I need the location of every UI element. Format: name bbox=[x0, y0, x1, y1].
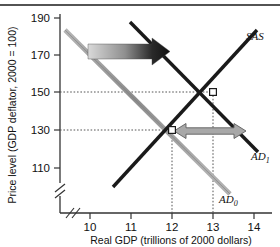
x-axis-title: Real GDP (trillions of 2000 dollars) bbox=[90, 234, 251, 246]
ad0-label-base: AD bbox=[218, 193, 234, 205]
chart-svg: 190 170 150 130 110 10 11 12 13 14 Real … bbox=[0, 0, 280, 247]
x-tick-label-13: 13 bbox=[207, 221, 220, 233]
sas-curve-label: SAS bbox=[246, 30, 264, 42]
y-tick-marks bbox=[54, 18, 60, 168]
x-tick-marks bbox=[90, 213, 254, 219]
y-tick-label-150: 150 bbox=[31, 86, 50, 98]
y-axis-break-mark bbox=[55, 184, 65, 198]
as-ad-chart-figure: 190 170 150 130 110 10 11 12 13 14 Real … bbox=[0, 0, 280, 247]
ad0-curve-label: AD0 bbox=[218, 193, 238, 208]
y-tick-label-190: 190 bbox=[31, 12, 50, 24]
ad0-label-subscript: 0 bbox=[234, 199, 238, 208]
x-tick-label-10: 10 bbox=[84, 221, 97, 233]
ad1-label-base: AD bbox=[250, 150, 266, 162]
ad1-label-subscript: 1 bbox=[266, 156, 270, 165]
axes bbox=[54, 14, 272, 219]
ad-shift-arrow bbox=[88, 38, 170, 65]
y-axis-title: Price level (GDP deflator, 2000 = 100) bbox=[6, 27, 18, 204]
equilibrium-marker-initial bbox=[169, 127, 176, 134]
ad1-curve-label: AD1 bbox=[250, 150, 270, 165]
y-tick-label-170: 170 bbox=[31, 49, 50, 61]
x-tick-label-14: 14 bbox=[248, 221, 261, 233]
y-tick-label-130: 130 bbox=[31, 124, 50, 136]
gdp-change-arrow bbox=[174, 124, 246, 139]
equilibrium-marker-new bbox=[210, 89, 217, 96]
y-tick-label-110: 110 bbox=[32, 162, 50, 174]
ad-shift-arrow-body bbox=[88, 38, 170, 65]
gdp-change-arrow-body bbox=[174, 124, 246, 139]
x-tick-label-11: 11 bbox=[125, 221, 137, 233]
x-tick-label-12: 12 bbox=[166, 221, 179, 233]
